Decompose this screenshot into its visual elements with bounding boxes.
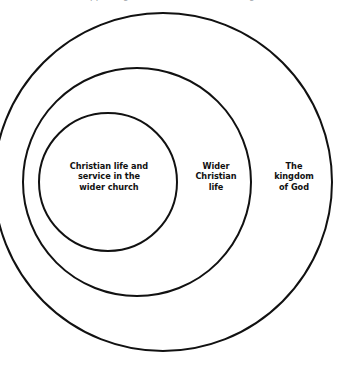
label-inner-line-2: service in the	[46, 171, 172, 181]
concentric-circles-diagram: Supporting the wider church (see diagram…	[0, 0, 355, 367]
label-middle-line-3: life	[183, 182, 249, 192]
label-outer-line-2: kingdom	[258, 171, 330, 181]
label-outer-line-1: The	[258, 161, 330, 171]
label-inner-circle: Christian life and service in the wider …	[46, 161, 172, 192]
label-outer-line-3: of God	[258, 182, 330, 192]
label-inner-line-1: Christian life and	[46, 161, 172, 171]
label-inner-line-3: wider church	[46, 182, 172, 192]
label-middle-circle: Wider Christian life	[183, 161, 249, 192]
label-middle-line-2: Christian	[183, 171, 249, 181]
label-middle-line-1: Wider	[183, 161, 249, 171]
label-outer-circle: The kingdom of God	[258, 161, 330, 192]
